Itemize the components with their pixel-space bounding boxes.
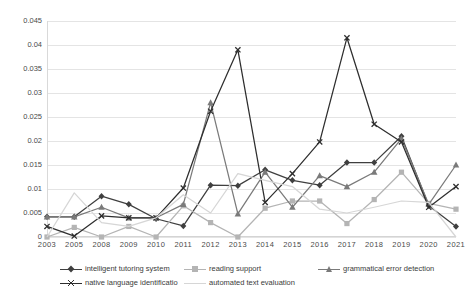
x-axis-tick-label: 2021 (447, 240, 465, 249)
legend-swatch-icon (184, 264, 206, 274)
x-axis-tick-label: 2010 (147, 240, 165, 249)
x-axis-tick-label: 2015 (283, 240, 301, 249)
x-axis-tick-label: 2014 (256, 240, 274, 249)
data-point-marker (290, 171, 295, 176)
data-point-marker (208, 220, 213, 225)
data-point-marker (153, 234, 158, 239)
chart-legend: intelligent tutoring systemreading suppo… (60, 262, 456, 294)
legend-label: native language identificatio (85, 278, 178, 288)
y-axis-tick-label: 0.025 (23, 113, 42, 121)
x-axis-tick-label: 2020 (420, 240, 438, 249)
series-line (47, 172, 456, 237)
data-point-marker (235, 234, 240, 239)
data-point-marker (99, 234, 104, 239)
legend-label: reading support (209, 264, 261, 274)
data-point-marker (290, 198, 295, 203)
y-axis: 00.0050.010.0150.020.0250.030.0350.040.0… (0, 0, 42, 302)
data-point-marker (263, 206, 268, 211)
y-axis-tick-label: 0.035 (23, 65, 42, 73)
x-axis-tick-label: 2013 (229, 240, 247, 249)
y-axis-tick-label: 0.015 (23, 161, 42, 169)
data-point-marker (372, 197, 377, 202)
legend-swatch-icon (184, 278, 206, 288)
data-point-marker (453, 207, 458, 212)
y-axis-tick-label: 0.005 (23, 209, 42, 217)
data-point-marker (316, 172, 323, 178)
legend-swatch-icon (318, 264, 340, 274)
legend-label: automated text evaluation (209, 278, 295, 288)
legend-row: intelligent tutoring systemreading suppo… (60, 262, 456, 276)
x-axis-tick-label: 2016 (311, 240, 329, 249)
x-axis-tick-label: 2017 (338, 240, 356, 249)
series-layer (47, 21, 456, 237)
series-reading-support (44, 170, 458, 240)
y-axis-tick-label: 0.03 (27, 89, 42, 97)
legend-label: intelligent tutoring system (85, 264, 170, 274)
legend-swatch-icon (60, 264, 82, 274)
data-point-marker (453, 162, 460, 168)
legend-item[interactable]: automated text evaluation (184, 276, 295, 290)
x-axis-tick-label: 2003 (38, 240, 56, 249)
x-axis: 2003200520082009201020112012201320142015… (47, 240, 456, 254)
data-point-marker (98, 204, 105, 210)
gridline (47, 237, 456, 238)
series-line (47, 103, 456, 218)
y-axis-tick-label: 0.02 (27, 137, 42, 145)
x-axis-tick-label: 2011 (174, 240, 192, 249)
legend-swatch-icon (60, 278, 82, 288)
data-point-marker (235, 182, 241, 189)
series-native-language-identificatio (44, 35, 458, 238)
series-intelligent-tutoring-system (44, 133, 459, 230)
legend-item[interactable]: native language identificatio (60, 276, 178, 290)
data-point-marker (207, 99, 214, 105)
y-axis-tick-label: 0.01 (27, 185, 42, 193)
x-axis-tick-label: 2008 (92, 240, 110, 249)
legend-item[interactable]: grammatical error detection (318, 262, 434, 276)
x-axis-tick-label: 2019 (392, 240, 410, 249)
series-automated-text-evaluation (47, 174, 456, 237)
legend-row: native language identificatioautomated t… (60, 276, 456, 290)
x-axis-tick-label: 2009 (120, 240, 138, 249)
x-axis-tick-label: 2005 (65, 240, 83, 249)
legend-label: grammatical error detection (343, 264, 434, 274)
y-axis-tick-label: 0.045 (23, 17, 42, 25)
data-point-marker (126, 201, 132, 208)
y-axis-tick-label: 0.04 (27, 41, 42, 49)
data-point-marker (72, 225, 77, 230)
data-point-marker (317, 198, 322, 203)
data-point-marker (344, 221, 349, 226)
data-point-marker (399, 170, 404, 175)
series-line (47, 136, 456, 226)
series-line (47, 38, 456, 236)
x-axis-tick-label: 2018 (365, 240, 383, 249)
data-point-marker (453, 184, 458, 189)
data-point-marker (289, 177, 295, 184)
legend-item[interactable]: intelligent tutoring system (60, 262, 170, 276)
series-line (47, 174, 456, 237)
plot-area (47, 21, 456, 237)
legend-item[interactable]: reading support (184, 262, 261, 276)
x-axis-tick-label: 2012 (201, 240, 219, 249)
